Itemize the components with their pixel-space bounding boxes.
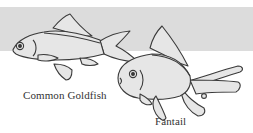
fantail-illustration [118,26,242,120]
label-common-goldfish: Common Goldfish [23,89,107,101]
label-fantail: Fantail [155,115,186,127]
fish-illustrations [0,0,253,133]
goldfish-diagram: Common Goldfish Fantail [0,0,253,133]
common-goldfish-illustration [13,14,138,80]
